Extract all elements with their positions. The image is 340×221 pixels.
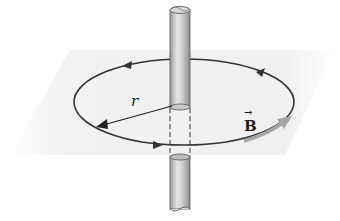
field-vector-arrow-icon: → [244, 107, 253, 118]
wire-magnetic-field-diagram: r B → [0, 0, 340, 221]
radius-label: r [131, 92, 139, 110]
field-label: B [244, 117, 257, 135]
wire-upper [170, 7, 190, 111]
wire-lower [170, 154, 190, 211]
